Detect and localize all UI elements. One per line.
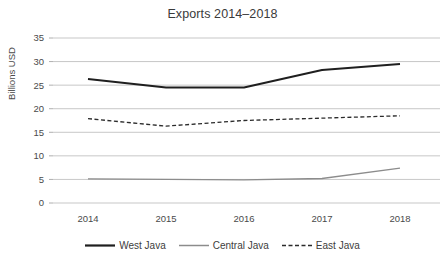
series-line-east-java bbox=[88, 116, 400, 126]
series-line-west-java bbox=[88, 64, 400, 88]
y-tick-label: 5 bbox=[39, 174, 44, 185]
legend-swatch-central-java bbox=[179, 241, 209, 250]
legend-swatch-east-java bbox=[282, 241, 312, 250]
x-tick-label: 2016 bbox=[233, 213, 254, 224]
y-axis-tick-labels: 05101520253035 bbox=[33, 32, 44, 208]
legend-label-east-java: East Java bbox=[316, 240, 360, 251]
legend-item-central-java[interactable]: Central Java bbox=[179, 240, 269, 251]
legend-swatch-west-java bbox=[85, 241, 115, 250]
x-tick-label: 2015 bbox=[155, 213, 176, 224]
x-tick-label: 2017 bbox=[311, 213, 332, 224]
data-series bbox=[88, 64, 400, 180]
series-line-central-java bbox=[88, 168, 400, 180]
y-tick-label: 35 bbox=[33, 32, 44, 43]
y-tick-label: 20 bbox=[33, 103, 44, 114]
plot-area: 05101520253035 20142015201620172018 bbox=[0, 0, 445, 266]
y-tick-label: 0 bbox=[39, 197, 44, 208]
y-tick-label: 30 bbox=[33, 56, 44, 67]
y-tick-label: 15 bbox=[33, 127, 44, 138]
legend-item-east-java[interactable]: East Java bbox=[282, 240, 360, 251]
x-tick-label: 2014 bbox=[77, 213, 98, 224]
chart-container: Exports 2014–2018 Billions USD 051015202… bbox=[0, 0, 445, 266]
legend-item-west-java[interactable]: West Java bbox=[85, 240, 166, 251]
x-axis-tick-labels: 20142015201620172018 bbox=[77, 213, 410, 224]
chart-legend: West Java Central Java East Java bbox=[0, 240, 445, 251]
legend-label-central-java: Central Java bbox=[213, 240, 269, 251]
legend-label-west-java: West Java bbox=[119, 240, 166, 251]
y-tick-label: 25 bbox=[33, 80, 44, 91]
y-tick-label: 10 bbox=[33, 150, 44, 161]
x-tick-label: 2018 bbox=[389, 213, 410, 224]
axis-tickmarks bbox=[49, 38, 53, 203]
